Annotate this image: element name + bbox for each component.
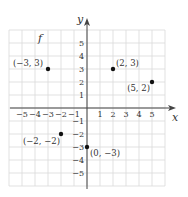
x-tick-label: 4: [136, 110, 141, 119]
y-tick-label: −5: [72, 169, 84, 178]
x-tick-label: −5: [16, 110, 28, 119]
y-tick-label: −4: [72, 156, 84, 165]
data-point: [150, 80, 154, 84]
y-tick-label: 2: [79, 78, 84, 87]
y-tick-label: −1: [72, 117, 84, 126]
x-tick-label: −4: [29, 110, 41, 119]
x-tick-label: −2: [55, 110, 67, 119]
point-label: (5, 2): [127, 83, 150, 93]
x-tick-label: 5: [149, 110, 154, 119]
point-label: (−2, −2): [23, 136, 60, 146]
y-axis-label: y: [76, 13, 84, 26]
x-tick-label: −3: [42, 110, 54, 119]
y-tick-label: −3: [72, 143, 84, 152]
point-label: (−3, 3): [13, 58, 43, 68]
y-tick-label: −2: [72, 130, 84, 139]
point-label: (0, −3): [90, 148, 120, 158]
y-tick-label: 3: [79, 65, 84, 74]
y-tick-label: 5: [79, 39, 84, 48]
data-point: [111, 67, 115, 71]
x-tick-label: 2: [110, 110, 115, 119]
x-tick-label: 1: [97, 110, 102, 119]
data-point: [85, 145, 89, 149]
coordinate-plane: x y f −5−4−3−2−11234554321−1−2−3−4−5 (−3…: [0, 0, 188, 197]
x-axis-label: x: [172, 111, 179, 124]
x-tick-label: 3: [123, 110, 128, 119]
y-tick-label: 4: [79, 52, 84, 61]
y-tick-label: 1: [79, 91, 84, 100]
point-label: (2, 3): [116, 58, 139, 68]
data-point: [46, 67, 50, 71]
